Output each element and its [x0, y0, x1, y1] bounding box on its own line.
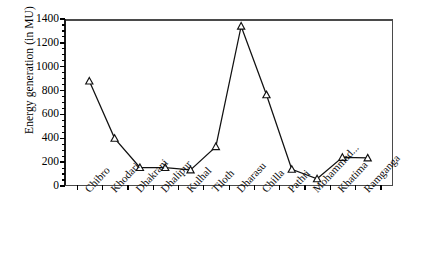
y-tick-label-800: 800: [42, 85, 59, 97]
data-point-khodari: [111, 135, 118, 142]
data-point-chilla: [263, 91, 270, 98]
figure-caption: [30, 248, 420, 253]
series-line: [89, 26, 367, 179]
data-point-dharasu: [238, 23, 245, 30]
x-axis-tick-labels: ChibroKhodariDhakraniDhalipurKulhalTilot…: [64, 187, 393, 251]
y-tick-label-400: 400: [42, 133, 59, 145]
y-tick-label-200: 200: [42, 156, 59, 168]
y-axis-title: Energy generation (in MU): [23, 0, 35, 163]
chart-figure: Energy generation (in MU) 02004006008001…: [0, 0, 443, 253]
y-tick-label-1200: 1200: [36, 37, 59, 49]
data-point-pathri: [288, 166, 295, 173]
series-markers: [86, 23, 372, 182]
y-tick-label-0: 0: [53, 180, 59, 192]
y-tick-label-1400: 1400: [36, 13, 59, 25]
y-tick-label-1000: 1000: [36, 61, 59, 73]
y-tick-label-600: 600: [42, 109, 59, 121]
data-point-tiloth: [212, 143, 219, 150]
data-point-chibro: [86, 77, 93, 84]
